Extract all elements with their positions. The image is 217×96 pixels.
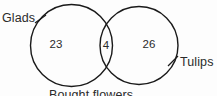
glads-only-count: 23 bbox=[44, 39, 68, 51]
tulips-only-count: 26 bbox=[136, 39, 162, 51]
venn-diagram-figure: Glads Tulips 23 4 26 Bought flowers bbox=[0, 0, 217, 96]
glads-leader-line bbox=[35, 15, 46, 23]
tulips-set-label: Tulips bbox=[180, 56, 213, 69]
glads-set-label: Glads bbox=[2, 12, 35, 25]
intersection-count: 4 bbox=[96, 40, 116, 52]
figure-caption: Bought flowers bbox=[49, 89, 133, 96]
